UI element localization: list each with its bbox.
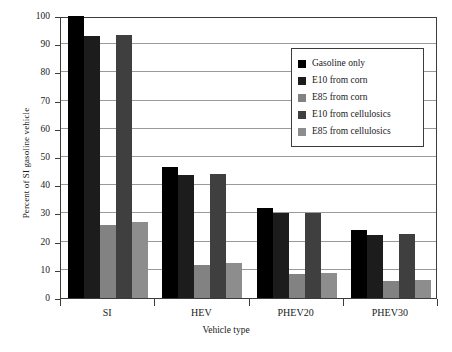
y-tick-label: 10 [18,266,50,276]
bar [367,235,383,298]
x-group-label-phev30: PHEV30 [345,308,435,318]
x-group-label-hev: HEV [156,308,246,318]
bar [383,281,399,298]
legend-label: E10 from cellulosics [312,110,391,120]
bar [210,174,226,298]
y-tick-label: 90 [18,40,50,50]
legend-label: Gasoline only [312,59,365,69]
y-tick-label: 30 [18,209,50,219]
bar [84,36,100,298]
bar [226,263,242,298]
legend-label: E85 from cellulosics [312,127,391,137]
bar [321,273,337,298]
bar [399,234,415,298]
y-tick-label: 40 [18,181,50,191]
bar-group-si [61,18,155,298]
legend-swatch-icon [298,94,306,102]
x-axis-tick [60,299,61,306]
legend-swatch-icon [298,111,306,119]
bar-group-hev [155,18,249,298]
y-tick-label: 70 [18,97,50,107]
legend-item: E10 from corn [298,72,416,89]
bar [257,208,273,298]
bar [116,35,132,298]
bar [351,230,367,298]
legend-item: Gasoline only [298,55,416,72]
y-tick-label: 0 [18,294,50,304]
y-tick-label: 80 [18,68,50,78]
bar [162,167,178,298]
x-axis-tick [154,299,155,306]
y-tick-label: 100 [18,12,50,22]
bar [273,213,289,298]
bar [178,175,194,298]
y-tick-label: 50 [18,153,50,163]
legend-label: E10 from corn [312,76,367,86]
bar [289,274,305,298]
bar [194,265,210,298]
bar [415,280,431,298]
legend-swatch-icon [298,128,306,136]
bar-chart: Percent of SI gasoline vehicle 010203040… [0,0,452,352]
x-axis-tick [343,299,344,306]
x-group-label-si: SI [62,308,152,318]
bar [132,222,148,298]
legend-item: E10 from cellulosics [298,106,416,123]
bar [100,225,116,298]
x-group-label-phev20: PHEV20 [251,308,341,318]
x-axis-tick [437,299,438,306]
legend-swatch-icon [298,77,306,85]
x-axis-tick [249,299,250,306]
legend-item: E85 from corn [298,89,416,106]
legend-swatch-icon [298,60,306,68]
x-axis-title: Vehicle type [0,325,452,335]
y-tick-label: 20 [18,238,50,248]
bar [305,213,321,298]
legend-item: E85 from cellulosics [298,123,416,140]
bar [68,16,84,298]
y-tick-label: 60 [18,125,50,135]
legend-label: E85 from corn [312,93,367,103]
legend: Gasoline onlyE10 from cornE85 from cornE… [291,48,424,147]
